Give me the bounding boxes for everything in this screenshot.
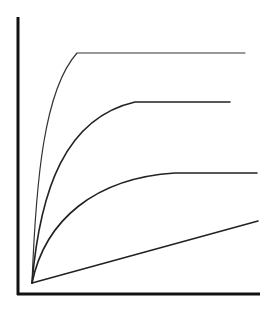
line-4 bbox=[32, 221, 258, 283]
saturation-curves-diagram bbox=[0, 0, 276, 310]
curve-3 bbox=[32, 173, 257, 283]
curve-1 bbox=[32, 53, 245, 283]
